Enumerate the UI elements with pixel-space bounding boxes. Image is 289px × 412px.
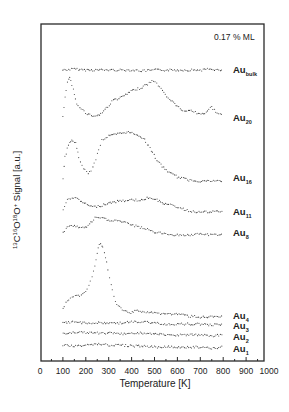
x-tick-label: 500 — [147, 366, 161, 376]
y-axis-label: 13C16O18O+ Signal [a.u.] — [11, 151, 22, 249]
trace-au20 — [62, 77, 222, 117]
x-tick-label: 200 — [79, 366, 93, 376]
x-tick-label: 1000 — [260, 366, 279, 376]
trace-au3 — [62, 320, 222, 326]
x-tick-label: 300 — [102, 366, 116, 376]
trace-au1 — [62, 343, 222, 350]
x-tick-label: 700 — [193, 366, 207, 376]
trace-au11 — [63, 197, 223, 214]
trace-au8 — [63, 217, 222, 237]
x-tick-label: 100 — [56, 366, 70, 376]
x-tick-label: 400 — [125, 366, 139, 376]
x-axis-tick-labels: 01002003004005006007008009001000 — [38, 366, 279, 376]
trace-au16 — [63, 131, 223, 183]
tpr-chart: 01002003004005006007008009001000 AubulkA… — [0, 0, 289, 412]
x-tick-label: 900 — [239, 366, 253, 376]
plot-frame — [41, 24, 264, 361]
series-label-au_bulk: Aubulk — [233, 64, 258, 77]
series-label-au1: Au1 — [233, 343, 249, 356]
coverage-annotation: 0.17 % ML — [214, 32, 255, 42]
series-labels: AubulkAu20Au16Au11Au8Au4Au3Au2Au1 — [233, 64, 258, 356]
series-label-au16: Au16 — [233, 172, 252, 185]
series-label-au8: Au8 — [233, 227, 249, 240]
trace-au2 — [63, 331, 223, 337]
x-tick-label: 0 — [38, 366, 43, 376]
series-label-au11: Au11 — [233, 206, 252, 219]
series-label-au20: Au20 — [233, 112, 252, 125]
trace-au4 — [63, 243, 223, 318]
x-axis-label: Temperature [K] — [119, 378, 190, 389]
x-tick-label: 600 — [170, 366, 184, 376]
data-traces — [62, 68, 222, 350]
series-label-au2: Au2 — [233, 331, 249, 344]
trace-au_bulk — [62, 68, 222, 72]
x-tick-label: 800 — [216, 366, 230, 376]
